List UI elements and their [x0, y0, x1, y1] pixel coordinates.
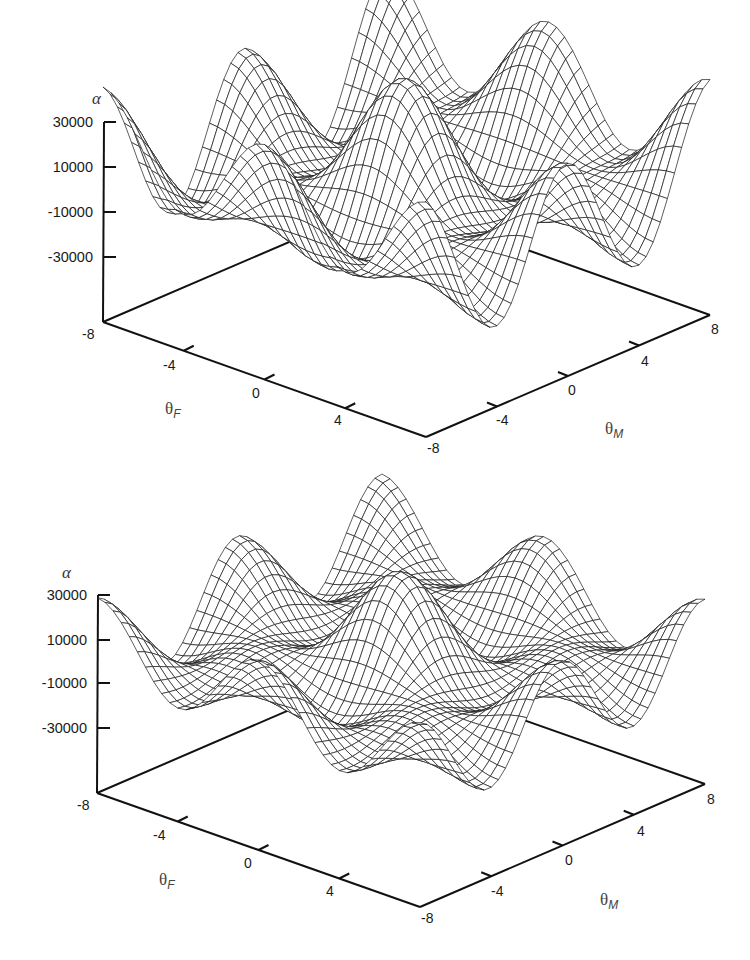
- theta-f-tick: [345, 403, 355, 408]
- theta-m-tick-label: -4: [491, 884, 503, 898]
- z-axis-line: [103, 122, 104, 322]
- bottom-surface-plot: [97, 474, 705, 907]
- z-tick-label: 10000: [0, 633, 87, 648]
- theta-m-tick-label: 4: [637, 824, 645, 838]
- theta-f-axis-title: θF: [159, 871, 175, 891]
- z-tick-label: 30000: [3, 115, 93, 130]
- z-tick-label: -30000: [0, 721, 87, 736]
- z-tick-label: 10000: [3, 160, 93, 175]
- z-axis-title: α: [62, 564, 71, 581]
- corner-label: -8: [77, 798, 89, 812]
- theta-f-tick-label: -4: [153, 828, 165, 842]
- theta-m-tick: [558, 372, 568, 376]
- theta-m-end-label: 8: [711, 322, 719, 336]
- theta-m-tick: [487, 403, 497, 407]
- theta-m-axis-title: θM: [605, 420, 623, 440]
- theta-m-end-label: 8: [707, 792, 715, 806]
- theta-f-tick-label: 4: [326, 884, 334, 898]
- theta-m-tick-label: -4: [496, 413, 508, 427]
- theta-f-end-label: -8: [421, 911, 433, 925]
- theta-m-axis-title: θM: [600, 891, 618, 911]
- theta-f-end-label: -8: [427, 441, 439, 455]
- theta-m-tick-label: 4: [641, 354, 649, 368]
- theta-f-tick: [265, 375, 275, 380]
- z-tick-label: -30000: [3, 250, 93, 265]
- theta-m-tick: [629, 342, 639, 346]
- theta-f-tick-label: 4: [334, 413, 342, 427]
- theta-f-tick-label: -4: [163, 358, 175, 372]
- surface-mesh: [103, 0, 710, 327]
- z-axis-line: [97, 595, 98, 793]
- theta-f-tick-label: 0: [244, 856, 252, 870]
- theta-f-axis-title: θF: [165, 400, 181, 420]
- theta-m-tick: [481, 872, 491, 876]
- surface-mesh: [97, 474, 705, 790]
- z-tick-label: -10000: [3, 205, 93, 220]
- theta-m-tick-label: 0: [565, 853, 573, 867]
- top-surface-plot: [103, 0, 710, 437]
- corner-label: -8: [82, 327, 94, 341]
- z-tick-label: -10000: [0, 676, 87, 691]
- theta-m-tick-label: 0: [568, 383, 576, 397]
- z-axis-title: α: [92, 90, 101, 107]
- theta-f-tick: [259, 845, 269, 850]
- theta-m-tick: [624, 811, 634, 815]
- theta-f-tick: [339, 874, 349, 879]
- z-tick-label: 30000: [0, 588, 87, 603]
- surface-plots: [0, 0, 750, 960]
- theta-f-tick-label: 0: [252, 386, 260, 400]
- theta-f-tick: [178, 817, 188, 822]
- theta-f-tick: [184, 346, 194, 351]
- theta-m-tick: [553, 842, 563, 846]
